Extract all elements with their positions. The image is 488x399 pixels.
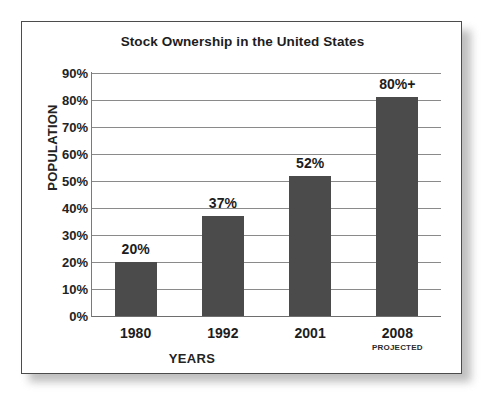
x-category-label: 1992 — [207, 325, 238, 341]
bar-value-label: 52% — [296, 155, 324, 171]
y-tick-label: 70% — [44, 120, 88, 135]
scan-artifact-mark: · · · — [350, 0, 368, 6]
scan-artifact-mark: · · · — [230, 0, 248, 6]
y-tick-label: 90% — [44, 66, 88, 81]
scan-artifact-mark: · · · — [420, 0, 438, 6]
y-tick-label: 50% — [44, 174, 88, 189]
y-tick-label: 0% — [44, 309, 88, 324]
bar-value-label: 20% — [122, 241, 150, 257]
x-category-label: 2008 — [382, 325, 413, 341]
plot-area: 20%37%52%80%+ — [92, 73, 441, 316]
y-tick-label: 30% — [44, 228, 88, 243]
bar-value-label: 80%+ — [379, 76, 415, 92]
chart-title: Stock Ownership in the United States — [22, 34, 463, 49]
y-tick-label: 20% — [44, 255, 88, 270]
gridline — [92, 73, 441, 74]
x-category-label: 1980 — [120, 325, 151, 341]
bar-value-label: 37% — [209, 195, 237, 211]
bar-1980[interactable] — [115, 262, 157, 316]
x-category-label: 2001 — [295, 325, 326, 341]
x-category-note: PROJECTED — [372, 343, 423, 352]
scan-artifact-strip: · · · · · · · · · — [150, 0, 488, 10]
chart-figure: Stock Ownership in the United States POP… — [21, 21, 462, 374]
y-axis-tick-labels: 90%80%70%60%50%40%30%20%10%0% — [36, 73, 88, 316]
bar-1992[interactable] — [202, 216, 244, 316]
bar-2008[interactable] — [376, 97, 418, 316]
gridline — [92, 316, 441, 317]
y-tick-label: 40% — [44, 201, 88, 216]
bar-2001[interactable] — [289, 176, 331, 316]
y-tick-label: 80% — [44, 93, 88, 108]
y-tick-label: 60% — [44, 147, 88, 162]
x-axis-title: YEARS — [92, 351, 292, 366]
y-tick-label: 10% — [44, 282, 88, 297]
